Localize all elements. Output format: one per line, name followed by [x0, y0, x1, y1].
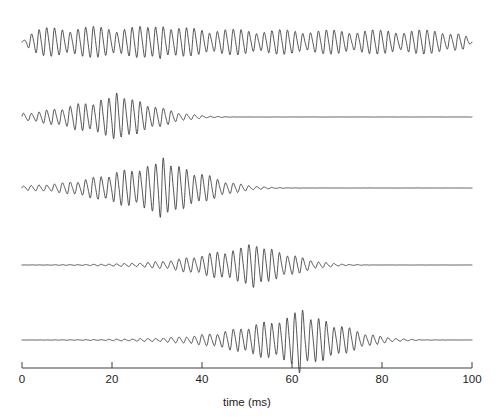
x-tick-label-80: 80	[376, 373, 389, 385]
waveform-trace-3	[22, 158, 472, 218]
x-tick-label-40: 40	[196, 373, 209, 385]
x-tick-label-60: 60	[286, 373, 299, 385]
waveform-trace-2	[22, 93, 472, 139]
waveform-trace-1	[22, 26, 472, 58]
waveform-trace-4	[22, 245, 472, 288]
x-axis: 020406080100	[19, 362, 482, 385]
waveform-figure: 020406080100 time (ms)	[0, 0, 501, 419]
waveform-trace-5	[22, 310, 472, 373]
traces-group	[22, 26, 472, 373]
x-tick-label-0: 0	[19, 373, 25, 385]
x-tick-label-20: 20	[106, 373, 119, 385]
plot-canvas: 020406080100 time (ms)	[0, 0, 501, 419]
x-tick-label-100: 100	[462, 373, 481, 385]
x-axis-title: time (ms)	[223, 396, 271, 408]
